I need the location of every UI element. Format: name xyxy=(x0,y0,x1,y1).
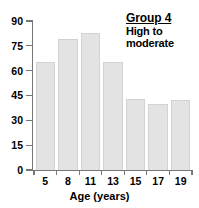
bar-age-15 xyxy=(126,99,145,170)
y-tick-mark xyxy=(26,145,32,146)
y-tick-45: 45 xyxy=(26,95,32,96)
x-tick-mark xyxy=(79,170,80,175)
x-tick-label-17: 17 xyxy=(152,176,164,187)
x-tick-mark xyxy=(101,170,102,175)
x-tick-label-11: 11 xyxy=(85,176,96,187)
x-tick-label-15: 15 xyxy=(130,176,142,187)
y-tick-60: 60 xyxy=(26,70,32,71)
bar-chart: Group 4 High to moderate 0153045607590 5… xyxy=(0,0,199,208)
y-tick-label: 45 xyxy=(11,90,23,101)
y-tick-30: 30 xyxy=(26,120,32,121)
y-tick-0: 0 xyxy=(26,169,32,170)
x-tick-label-8: 8 xyxy=(65,176,71,187)
bar-age-17 xyxy=(148,104,167,170)
y-tick-mark xyxy=(26,95,32,96)
y-tick-label: 60 xyxy=(11,65,23,76)
y-tick-90: 90 xyxy=(26,20,32,21)
y-tick-mark xyxy=(26,120,32,121)
bar-age-19 xyxy=(171,100,190,170)
x-tick-label-13: 13 xyxy=(107,176,119,187)
bar-age-8 xyxy=(58,39,77,170)
y-tick-75: 75 xyxy=(26,45,32,46)
x-tick-mark xyxy=(169,170,170,175)
x-tick-mark xyxy=(33,170,34,175)
bar-series xyxy=(34,21,192,170)
x-tick-mark xyxy=(191,170,192,175)
y-tick-mark xyxy=(26,169,32,170)
y-tick-label: 90 xyxy=(11,16,23,27)
y-tick-label: 30 xyxy=(11,115,23,126)
y-tick-label: 0 xyxy=(17,165,23,176)
y-tick-label: 15 xyxy=(11,140,23,151)
bar-age-13 xyxy=(103,62,122,170)
x-axis-title: Age (years) xyxy=(0,191,199,202)
y-tick-mark xyxy=(26,20,32,21)
x-tick-label-19: 19 xyxy=(175,176,187,187)
y-tick-label: 75 xyxy=(11,41,23,52)
x-tick-label-5: 5 xyxy=(42,176,48,187)
x-tick-mark xyxy=(56,170,57,175)
x-tick-mark xyxy=(124,170,125,175)
y-tick-mark xyxy=(26,45,32,46)
y-tick-15: 15 xyxy=(26,145,32,146)
y-tick-mark xyxy=(26,70,32,71)
bar-age-5 xyxy=(36,62,55,170)
x-tick-mark xyxy=(146,170,147,175)
bar-age-11 xyxy=(81,33,100,170)
